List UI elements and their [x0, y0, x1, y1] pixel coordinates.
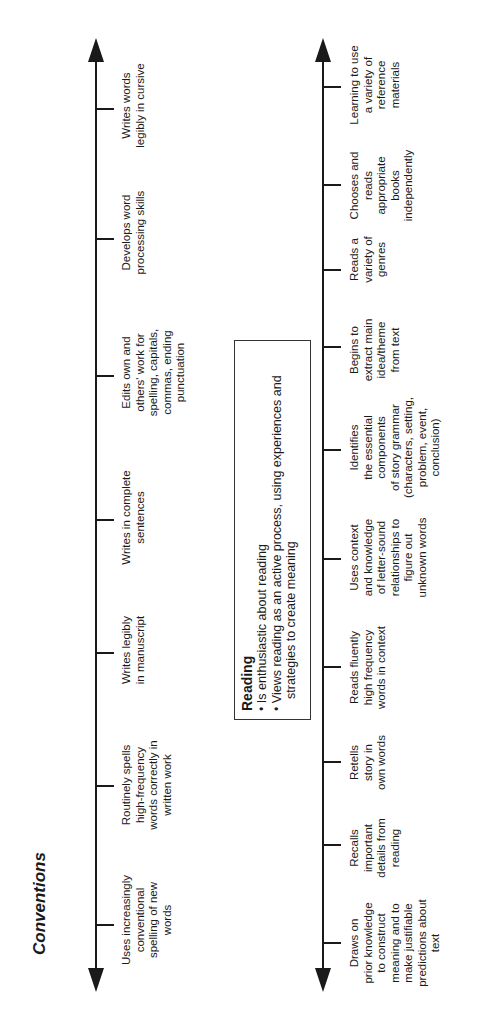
arrow-up-icon	[315, 38, 331, 62]
arrow-down-icon	[315, 968, 331, 992]
reading-item-label: Reads a variety of genres	[348, 227, 389, 292]
reading-item-label: Begins to extract main idea/theme from t…	[348, 310, 402, 390]
tick	[96, 652, 114, 654]
tick	[323, 86, 341, 88]
reading-item-label: Recalls important details from reading	[348, 813, 402, 883]
tick	[323, 558, 341, 560]
reading-box-bullet: • Is enthusiastic about reading	[255, 350, 270, 711]
reading-box-bullet: • Views reading as an active process, us…	[270, 350, 299, 711]
conventions-title: Conventions	[30, 852, 50, 955]
tick	[323, 844, 341, 846]
tick	[96, 375, 114, 377]
tick	[323, 346, 341, 348]
reading-item-label: Retells story in own words	[348, 730, 389, 795]
reading-summary-box: Reading • Is enthusiastic about reading …	[234, 340, 311, 720]
tick	[323, 942, 341, 944]
tick	[96, 519, 114, 521]
tick	[96, 108, 114, 110]
reading-item-label: Uses context and knowledge of letter-sou…	[348, 510, 429, 605]
conventions-item-label: Routinely spells high-frequency words co…	[120, 725, 174, 845]
conventions-item-label: Develops word processing skills	[120, 180, 147, 285]
tick	[96, 924, 114, 926]
tick	[323, 761, 341, 763]
arrow-up-icon	[88, 38, 104, 62]
conventions-item-label: Writes words legibly in cursive	[120, 53, 147, 158]
reading-item-label: Draws on prior knowledge to construct me…	[348, 893, 443, 993]
conventions-item-label: Uses increasingly conventional spelling …	[120, 865, 174, 975]
reading-item-label: Chooses and reads appropriate books inde…	[348, 143, 416, 228]
tick	[323, 666, 341, 668]
arrow-down-icon	[88, 968, 104, 992]
conventions-item-label: Writes legibly in manuscript	[120, 605, 147, 695]
reading-item-label: Identifies the essential components of s…	[348, 390, 443, 505]
tick	[96, 238, 114, 240]
conventions-item-label: Edits own and others' work for spelling,…	[120, 315, 188, 430]
reading-item-label: Reads fluently high frequency words in c…	[348, 615, 389, 720]
reading-box-title: Reading	[239, 350, 255, 711]
conventions-item-label: Writes in complete sentences	[120, 460, 147, 575]
conventions-axis	[95, 60, 97, 972]
reading-item-label: Learning to use a variety of reference m…	[348, 40, 402, 130]
tick	[323, 449, 341, 451]
tick	[323, 269, 341, 271]
tick	[323, 184, 341, 186]
reading-axis	[322, 60, 324, 972]
tick	[96, 785, 114, 787]
